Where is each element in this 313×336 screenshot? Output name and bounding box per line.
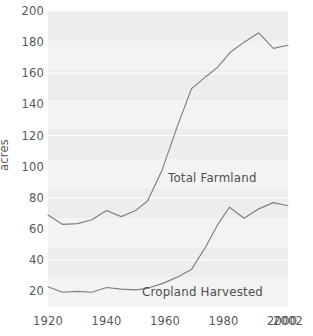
series-line-total-farmland <box>48 33 288 225</box>
x-tick-label: 2002 <box>273 315 303 327</box>
series-label-total-farmland: Total Farmland <box>168 171 257 185</box>
y-axis-title: acres <box>0 139 11 171</box>
y-tick-label: 20 <box>2 285 44 297</box>
series-layer <box>48 11 288 307</box>
series-line-cropland-harvested <box>48 203 288 293</box>
y-tick-label: 40 <box>2 254 44 266</box>
x-tick-label: 1940 <box>91 315 121 327</box>
series-label-cropland-harvested: Cropland Harvested <box>142 285 263 299</box>
y-tick-label: 180 <box>2 36 44 48</box>
x-tick-label: 1980 <box>209 315 239 327</box>
y-tick-label: 60 <box>2 223 44 235</box>
y-tick-label: 140 <box>2 98 44 110</box>
plot-area <box>48 11 288 307</box>
y-tick-label: 160 <box>2 67 44 79</box>
x-tick-label: 1960 <box>150 315 180 327</box>
y-tick-label: 80 <box>2 192 44 204</box>
line-chart: 20018016014012010080604020 acres 1920194… <box>0 0 313 336</box>
y-tick-label: 200 <box>2 5 44 17</box>
x-tick-label: 1920 <box>33 315 63 327</box>
